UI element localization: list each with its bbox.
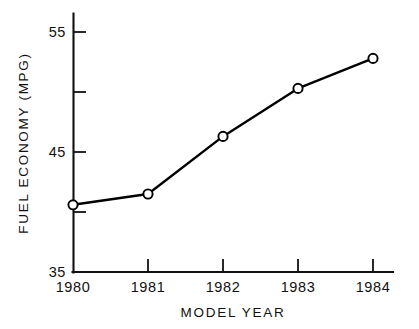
y-tick-label-35: 35: [49, 264, 66, 280]
data-point-1983: [293, 84, 302, 93]
chart-figure: 55 45 35 1980 1981 1982 1983 1984 FUEL E…: [0, 0, 419, 329]
x-tick-label-1984: 1984: [356, 279, 391, 295]
x-tick-label-1980: 1980: [56, 279, 91, 295]
y-axis-label: FUEL ECONOMY (MPG): [16, 52, 31, 233]
data-point-1982: [218, 132, 227, 141]
data-point-1984: [368, 54, 377, 63]
x-tick-label-1982: 1982: [206, 279, 241, 295]
line-chart-plot: 55 45 35 1980 1981 1982 1983 1984 FUEL E…: [0, 0, 419, 329]
x-axis-label: MODEL YEAR: [181, 305, 286, 320]
data-point-1980: [68, 200, 77, 209]
data-point-1981: [143, 189, 152, 198]
x-tick-label-1981: 1981: [131, 279, 166, 295]
y-tick-label-55: 55: [49, 24, 66, 40]
x-tick-label-1983: 1983: [281, 279, 316, 295]
y-tick-label-45: 45: [49, 144, 66, 160]
